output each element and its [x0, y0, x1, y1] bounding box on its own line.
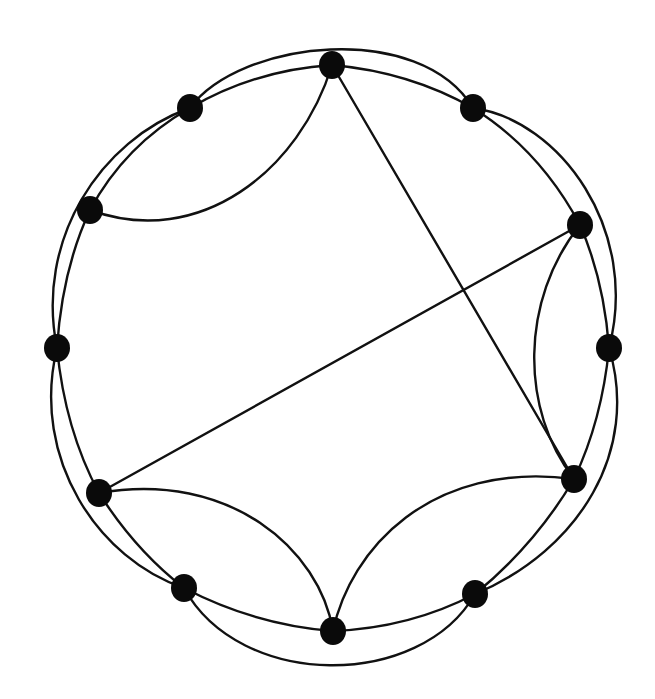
background: [0, 0, 655, 699]
graph-node-0: [319, 51, 345, 79]
graph-node-11: [320, 617, 346, 645]
graph-node-2: [460, 94, 486, 122]
graph-diagram: [0, 0, 655, 699]
graph-node-4: [567, 211, 593, 239]
graph-node-5: [44, 334, 70, 362]
graph-node-8: [561, 465, 587, 493]
graph-node-1: [177, 94, 203, 122]
graph-node-7: [86, 479, 112, 507]
graph-node-3: [77, 196, 103, 224]
graph-node-10: [462, 580, 488, 608]
graph-node-6: [596, 334, 622, 362]
graph-node-9: [171, 574, 197, 602]
